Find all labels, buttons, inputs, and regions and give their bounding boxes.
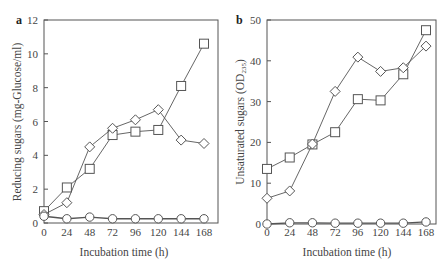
series-b (262, 26, 431, 229)
x-axis-label-b: Incubation time (h) (303, 246, 392, 259)
circle-marker (108, 215, 116, 223)
square-marker (331, 128, 340, 137)
y-tick-label: 8 (33, 82, 39, 94)
diamond-marker (262, 193, 272, 203)
circle-marker (422, 218, 430, 226)
circle-marker (286, 219, 294, 227)
circle-marker (200, 215, 208, 223)
square-marker (353, 95, 362, 104)
circle-marker (131, 215, 139, 223)
x-tick-label: 168 (196, 226, 213, 238)
x-tick-label: 72 (107, 226, 118, 238)
diamond-marker (130, 115, 140, 125)
square-marker (177, 81, 186, 90)
y-axis-label-b-main: Unsaturated sugars (OD (234, 74, 247, 185)
y-tick-label: 10 (27, 48, 39, 60)
y-tick-label: 0 (33, 217, 39, 229)
figure: a 024681012 024487296120144168 Incubatio… (0, 0, 448, 272)
diamond-marker (330, 86, 340, 96)
square-marker (200, 39, 209, 48)
diamond-marker (353, 52, 363, 62)
x-tick-label: 120 (150, 226, 167, 238)
square-marker (62, 183, 71, 192)
diamond-marker (176, 135, 186, 145)
x-tick-label: 48 (307, 226, 319, 238)
square-marker (422, 26, 431, 35)
x-tick-label: 24 (61, 226, 73, 238)
x-tick-label: 168 (418, 226, 435, 238)
y-tick-label: 6 (33, 116, 39, 128)
diamond-marker (376, 66, 386, 76)
y-axis-label-b: Unsaturated sugars (OD235) (234, 59, 248, 185)
y-tick-label: 50 (250, 14, 262, 26)
circle-marker (86, 213, 94, 221)
series-line-square (267, 30, 426, 169)
diamond-marker (62, 198, 72, 208)
circle-marker (399, 219, 407, 227)
y-tick-label: 30 (250, 96, 262, 108)
diamond-marker (85, 142, 95, 152)
square-marker (154, 125, 163, 134)
panel-label-a: a (16, 13, 22, 27)
y-tick-label: 0 (256, 218, 262, 230)
panel-a-chart: a 024681012 024487296120144168 Incubatio… (11, 13, 218, 259)
square-marker (285, 153, 294, 162)
x-tick-label: 96 (130, 226, 142, 238)
y-tick-label: 20 (250, 136, 262, 148)
y-tick-label: 4 (33, 149, 39, 161)
y-tick-label: 40 (250, 55, 262, 67)
x-tick-label: 144 (173, 226, 190, 238)
square-marker (85, 164, 94, 173)
y-tick-label: 2 (33, 183, 39, 195)
diamond-marker (285, 186, 295, 196)
x-axis-label-a: Incubation time (h) (80, 246, 169, 259)
y-axis-ticks-a: 024681012 (27, 14, 48, 229)
diamond-marker (153, 105, 163, 115)
panel-label-b: b (236, 13, 243, 27)
circle-marker (263, 220, 271, 228)
square-marker (131, 127, 140, 136)
x-tick-label: 0 (41, 226, 47, 238)
y-axis-label-b-sub: 235 (240, 63, 248, 74)
circle-marker (63, 215, 71, 223)
y-axis-label-b-end: ) (234, 59, 247, 63)
y-tick-label: 12 (27, 14, 38, 26)
circle-marker (354, 219, 362, 227)
y-tick-label: 10 (250, 177, 262, 189)
x-axis-ticks-a: 024487296120144168 (41, 226, 213, 238)
square-marker (376, 96, 385, 105)
y-axis-label-a: Reducing sugars (mg-Glucose/ml) (11, 43, 24, 202)
panel-b-chart: b 01020304050 024487296120144168 Incubat… (234, 13, 436, 259)
circle-marker (308, 219, 316, 227)
circle-marker (177, 215, 185, 223)
circle-marker (154, 215, 162, 223)
circle-marker (40, 212, 48, 220)
circle-marker (331, 219, 339, 227)
square-marker (263, 164, 272, 173)
diamond-marker (199, 138, 209, 148)
circle-marker (376, 219, 384, 227)
x-tick-label: 48 (84, 226, 96, 238)
x-tick-label: 24 (284, 226, 296, 238)
x-axis-ticks-b: 024487296120144168 (264, 226, 435, 238)
series-a (39, 39, 209, 223)
